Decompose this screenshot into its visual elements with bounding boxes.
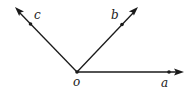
ray-b-arrowhead <box>129 7 138 16</box>
ray-c-arrowhead <box>15 7 24 16</box>
ray-c-line <box>19 12 77 72</box>
ray-b: b <box>77 7 138 72</box>
origin: o <box>73 70 80 89</box>
ray-a-label: a <box>161 76 168 90</box>
ray-b-line <box>77 12 134 72</box>
ray-a-point <box>167 70 171 74</box>
origin-label: o <box>73 75 80 89</box>
ray-b-label: b <box>111 8 119 22</box>
ray-c: c <box>15 7 77 72</box>
ray-c-label: c <box>34 8 41 22</box>
ray-c-point <box>29 22 33 26</box>
rays-diagram: a b c o <box>0 0 193 94</box>
ray-b-point <box>120 23 124 27</box>
ray-a: a <box>77 69 184 91</box>
origin-point <box>75 70 79 74</box>
